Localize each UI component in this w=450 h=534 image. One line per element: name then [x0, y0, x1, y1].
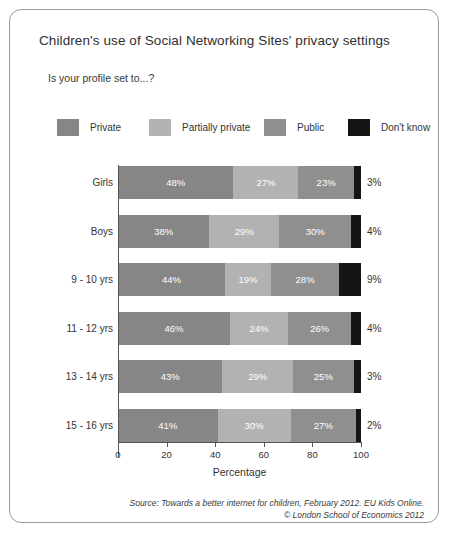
legend-item-public: Public	[264, 115, 324, 139]
bar-segment: 30%	[218, 409, 291, 442]
x-axis-tick-label: 0	[115, 449, 120, 460]
y-axis-line	[118, 165, 119, 457]
x-axis-tick	[312, 442, 313, 447]
legend-item-dont-know: Don't know	[348, 115, 430, 139]
stacked-bar: 48%27%23%	[118, 166, 361, 199]
bar-segment	[354, 360, 361, 393]
x-axis-tick	[361, 442, 362, 447]
legend-swatch-public	[264, 119, 286, 136]
bar-row: 15 - 16 yrs41%30%27%2%	[10, 409, 440, 442]
bar-segment	[351, 215, 361, 248]
bar-segment: 28%	[271, 263, 339, 296]
category-label: 13 - 14 yrs	[10, 360, 113, 393]
bar-row: 11 - 12 yrs46%24%26%4%	[10, 312, 440, 345]
segment-value-label: 2%	[367, 409, 381, 442]
bar-segment: 25%	[293, 360, 354, 393]
x-axis-tick	[118, 442, 119, 447]
legend-swatch-dont-know	[348, 119, 370, 136]
chart-card: Children's use of Social Networking Site…	[9, 9, 439, 523]
bar-segment: 44%	[118, 263, 225, 296]
stacked-bar: 43%29%25%	[118, 360, 361, 393]
legend-label-partially-private: Partially private	[182, 122, 250, 133]
bar-segment: 27%	[291, 409, 357, 442]
category-label: 11 - 12 yrs	[10, 312, 113, 345]
bar-row: 9 - 10 yrs44%19%28%9%	[10, 263, 440, 296]
bar-segment	[339, 263, 361, 296]
x-axis-tick-label: 100	[353, 449, 369, 460]
bar-segment: 38%	[118, 215, 209, 248]
x-axis-tick-label: 60	[259, 449, 270, 460]
segment-value-label: 3%	[367, 166, 381, 199]
stacked-bar: 46%24%26%	[118, 312, 361, 345]
source-note: Source: Towards a better internet for ch…	[129, 497, 424, 521]
bar-segment	[351, 312, 361, 345]
bar-segment: 41%	[118, 409, 218, 442]
category-label: Girls	[10, 166, 113, 199]
x-axis-tick	[215, 442, 216, 447]
bar-segment: 43%	[118, 360, 222, 393]
bar-segment: 19%	[225, 263, 271, 296]
bar-segment	[356, 409, 361, 442]
bar-segment: 24%	[230, 312, 288, 345]
bar-segment: 46%	[118, 312, 230, 345]
x-axis-line	[118, 442, 361, 443]
segment-value-label: 4%	[367, 215, 381, 248]
x-axis-tick	[167, 442, 168, 447]
legend-item-partially-private: Partially private	[149, 115, 250, 139]
stacked-bar: 41%30%27%	[118, 409, 361, 442]
category-label: Boys	[10, 215, 113, 248]
x-axis-tick	[264, 442, 265, 447]
bar-segment: 27%	[233, 166, 298, 199]
chart-title: Children's use of Social Networking Site…	[39, 33, 390, 48]
legend-label-dont-know: Don't know	[381, 122, 430, 133]
bar-segment	[354, 166, 361, 199]
bar-segment: 29%	[209, 215, 279, 248]
chart-plot-area: Girls48%27%23%3%Boys38%29%30%4%9 - 10 yr…	[10, 158, 440, 458]
bar-segment: 29%	[222, 360, 292, 393]
bar-segment: 26%	[288, 312, 351, 345]
stacked-bar: 44%19%28%	[118, 263, 361, 296]
bar-segment: 48%	[118, 166, 233, 199]
segment-value-label: 3%	[367, 360, 381, 393]
bar-row: Girls48%27%23%3%	[10, 166, 440, 199]
legend-item-private: Private	[57, 115, 121, 139]
x-axis-tick-label: 80	[307, 449, 318, 460]
x-axis-tick-label: 40	[210, 449, 221, 460]
segment-value-label: 4%	[367, 312, 381, 345]
bar-segment: 23%	[298, 166, 353, 199]
bar-row: 13 - 14 yrs43%29%25%3%	[10, 360, 440, 393]
chart-legend: Private Partially private Public Don't k…	[48, 115, 433, 139]
x-axis-tick-label: 20	[161, 449, 172, 460]
legend-swatch-partially-private	[149, 119, 171, 136]
category-label: 9 - 10 yrs	[10, 263, 113, 296]
legend-swatch-private	[57, 119, 79, 136]
legend-label-public: Public	[297, 122, 324, 133]
segment-value-label: 9%	[367, 263, 381, 296]
source-line-1: Source: Towards a better internet for ch…	[129, 497, 424, 509]
bar-segment: 30%	[279, 215, 351, 248]
category-label: 15 - 16 yrs	[10, 409, 113, 442]
legend-label-private: Private	[90, 122, 121, 133]
bar-row: Boys38%29%30%4%	[10, 215, 440, 248]
source-line-2: © London School of Economics 2012	[129, 509, 424, 521]
x-axis-title: Percentage	[118, 466, 361, 478]
chart-subtitle: Is your profile set to...?	[48, 72, 154, 84]
stacked-bar: 38%29%30%	[118, 215, 361, 248]
